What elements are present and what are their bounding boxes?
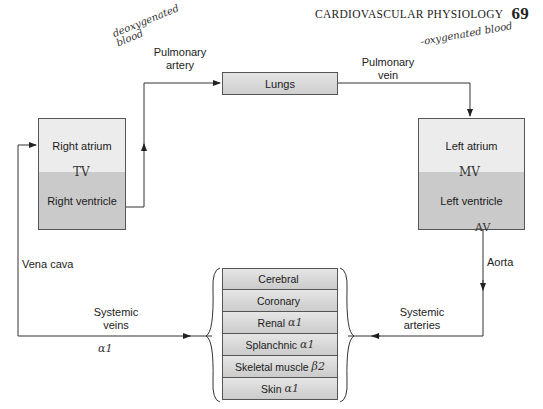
receptor-annotation: α1 [300, 338, 314, 351]
left-ventricle-label: Left ventricle [440, 195, 502, 207]
right-atrium-label: Right atrium [52, 140, 111, 152]
organ-skin: Skinα1 [222, 378, 338, 400]
annotation-systemic-veins-alpha1: α1 [98, 342, 112, 355]
organ-list: Cerebral Coronary Renalα1 Splanchnicα1 S… [222, 268, 338, 400]
right-ventricle-label: Right ventricle [47, 195, 117, 207]
vena-cava-label: Vena cava [22, 258, 73, 271]
lungs-box: Lungs [222, 72, 338, 95]
left-heart: Left atrium Left ventricle MV AV [418, 118, 525, 230]
left-atrium-label: Left atrium [446, 140, 498, 152]
left-ventricle: Left ventricle [419, 172, 524, 229]
right-heart: Right atrium Right ventricle TV [38, 118, 126, 230]
organ-renal: Renalα1 [222, 312, 338, 334]
organ-cerebral: Cerebral [222, 268, 338, 290]
organ-splanchnic: Splanchnicα1 [222, 334, 338, 356]
annotation-av: AV [475, 221, 490, 234]
organ-skeletal-muscle: Skeletal muscleβ2 [222, 356, 338, 378]
pulmonary-vein-label: Pulmonary vein [358, 56, 418, 82]
lungs-label: Lungs [265, 78, 295, 90]
annotation-mv: MV [459, 165, 480, 179]
aorta-label: Aorta [487, 256, 513, 269]
systemic-arteries-label: Systemic arteries [392, 306, 452, 332]
annotation-tv: TV [73, 165, 90, 179]
pulmonary-artery-label: Pulmonary artery [150, 46, 210, 72]
right-ventricle: Right ventricle [39, 172, 125, 229]
receptor-annotation: α1 [288, 316, 302, 329]
receptor-annotation: α1 [285, 382, 299, 395]
systemic-veins-label: Systemic veins [86, 306, 146, 332]
receptor-annotation: β2 [312, 360, 325, 373]
organ-coronary: Coronary [222, 290, 338, 312]
